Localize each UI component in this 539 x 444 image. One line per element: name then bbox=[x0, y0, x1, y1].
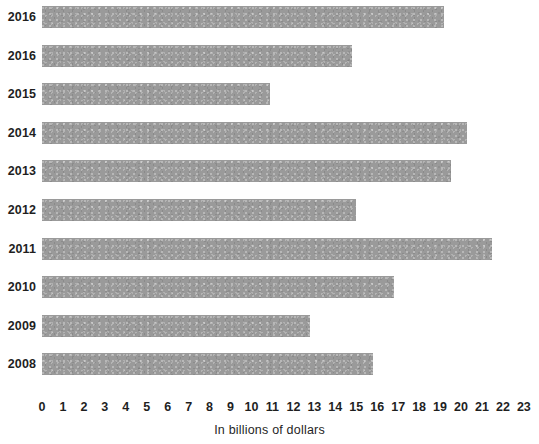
bar-row: 2012 bbox=[0, 199, 539, 221]
bar-track bbox=[42, 45, 352, 67]
bar bbox=[42, 315, 310, 337]
bar-track bbox=[42, 238, 492, 260]
bar bbox=[42, 122, 467, 144]
bar bbox=[42, 45, 352, 67]
bar bbox=[42, 353, 373, 375]
bar-category-label: 2015 bbox=[0, 83, 36, 105]
bar-row: 2008 bbox=[0, 353, 539, 375]
bar-category-label: 2016 bbox=[0, 45, 36, 67]
bar-row: 2014 bbox=[0, 122, 539, 144]
bar-track bbox=[42, 122, 467, 144]
bar-track bbox=[42, 199, 356, 221]
bar bbox=[42, 83, 270, 105]
bar-track bbox=[42, 83, 270, 105]
plot-area: 2016201620152014201320122011201020092008 bbox=[0, 0, 539, 396]
bar bbox=[42, 199, 356, 221]
bar-row: 2013 bbox=[0, 160, 539, 182]
bar-track bbox=[42, 353, 373, 375]
bar-category-label: 2010 bbox=[0, 276, 36, 298]
bar-category-label: 2008 bbox=[0, 353, 36, 375]
bar bbox=[42, 238, 492, 260]
x-axis-tick-label: 23 bbox=[511, 398, 537, 416]
bar-track bbox=[42, 315, 310, 337]
bar-track bbox=[42, 276, 394, 298]
x-axis-tick-labels: 01234567891011121314151617181920212223 bbox=[0, 398, 539, 418]
bar-row: 2015 bbox=[0, 83, 539, 105]
bar-category-label: 2013 bbox=[0, 160, 36, 182]
bar-row: 2016 bbox=[0, 6, 539, 28]
bar bbox=[42, 276, 394, 298]
bar-category-label: 2014 bbox=[0, 122, 36, 144]
bar bbox=[42, 160, 451, 182]
bar-row: 2016 bbox=[0, 45, 539, 67]
x-axis-title: In billions of dollars bbox=[0, 423, 539, 437]
bar-track bbox=[42, 160, 451, 182]
bar-category-label: 2016 bbox=[0, 6, 36, 28]
bar-track bbox=[42, 6, 444, 28]
bar-row: 2009 bbox=[0, 315, 539, 337]
bar-row: 2011 bbox=[0, 238, 539, 260]
bar-row: 2010 bbox=[0, 276, 539, 298]
bar bbox=[42, 6, 444, 28]
bar-chart-figure: 2016201620152014201320122011201020092008… bbox=[0, 0, 539, 444]
bar-category-label: 2009 bbox=[0, 315, 36, 337]
bar-category-label: 2011 bbox=[0, 238, 36, 260]
bar-category-label: 2012 bbox=[0, 199, 36, 221]
